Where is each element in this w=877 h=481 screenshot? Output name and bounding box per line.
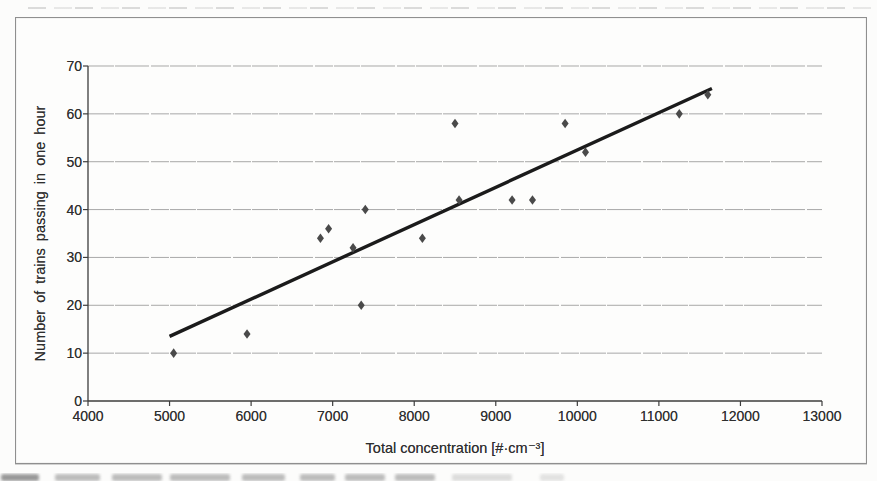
data-point-marker: [325, 224, 332, 234]
data-point-marker: [452, 119, 459, 129]
data-point-marker: [509, 195, 516, 205]
x-tick-label: 11000: [624, 408, 694, 424]
data-point-marker: [317, 233, 324, 243]
data-point-marker: [529, 195, 536, 205]
scanned-page: 010203040506070 400050006000700080009000…: [0, 0, 877, 481]
x-tick-label: 4000: [53, 408, 123, 424]
y-axis-title: Number of trains passing in one hour: [32, 61, 49, 406]
data-point-marker: [170, 348, 177, 358]
x-axis-title: Total concentration [#·cm⁻³]: [325, 440, 585, 457]
x-tick-label: 5000: [135, 408, 205, 424]
x-tick-label: 12000: [705, 408, 775, 424]
x-tick-label: 13000: [787, 408, 857, 424]
x-tick-label: 9000: [461, 408, 531, 424]
x-tick-label: 10000: [542, 408, 612, 424]
trendline: [170, 88, 712, 336]
x-tick-label: 7000: [298, 408, 368, 424]
data-point-marker: [419, 233, 426, 243]
x-tick-label: 8000: [379, 408, 449, 424]
data-point-marker: [358, 300, 365, 310]
data-point-marker: [362, 205, 369, 215]
data-point-marker: [676, 109, 683, 119]
x-tick-label: 6000: [216, 408, 286, 424]
data-point-marker: [562, 119, 569, 129]
data-point-marker: [244, 329, 251, 339]
cutoff-caption-fragment: [0, 473, 620, 481]
